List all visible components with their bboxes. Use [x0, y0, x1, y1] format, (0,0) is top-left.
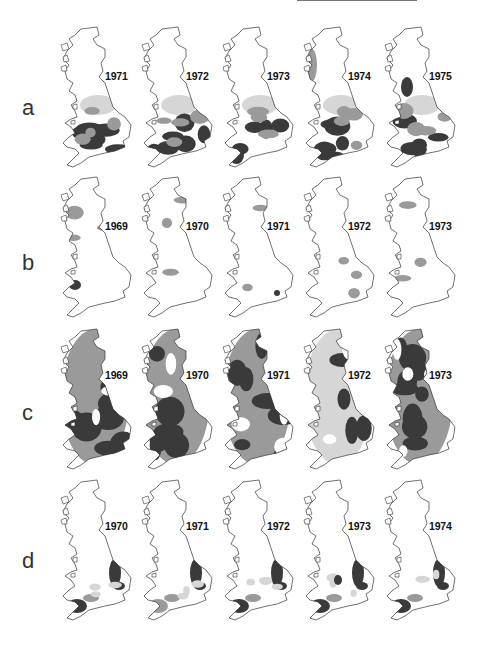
- gb-map-panel: 1974: [377, 478, 461, 623]
- year-label: 1972: [348, 369, 371, 381]
- year-label: 1972: [348, 220, 371, 232]
- year-label: 1971: [267, 369, 290, 381]
- great-britain-map: [53, 175, 137, 320]
- gb-map-panel: 1971: [215, 175, 299, 320]
- year-label: 1971: [267, 220, 290, 232]
- gb-map-panel: 1970: [134, 327, 218, 472]
- great-britain-map: [377, 175, 461, 320]
- great-britain-map: [53, 327, 137, 472]
- gb-map-panel: 1972: [215, 478, 299, 623]
- figure-caption-cutoff: [160, 632, 470, 640]
- year-label: 1970: [105, 520, 128, 532]
- gb-map-panel: 1971: [215, 327, 299, 472]
- gb-map-panel: 1975: [377, 25, 461, 170]
- gb-map-panel: 1973: [377, 327, 461, 472]
- row-label-c: c: [22, 400, 33, 426]
- gb-map-panel: 1969: [53, 327, 137, 472]
- great-britain-map: [134, 25, 218, 170]
- year-label: 1974: [429, 520, 452, 532]
- gb-map-panel: 1973: [215, 25, 299, 170]
- year-label: 1975: [429, 70, 452, 82]
- great-britain-map: [296, 25, 380, 170]
- year-label: 1974: [348, 70, 371, 82]
- great-britain-map: [215, 327, 299, 472]
- year-label: 1973: [429, 220, 452, 232]
- great-britain-map: [377, 327, 461, 472]
- year-label: 1973: [429, 369, 452, 381]
- year-label: 1970: [186, 369, 209, 381]
- gb-map-panel: 1970: [134, 175, 218, 320]
- gb-map-panel: 1972: [296, 327, 380, 472]
- year-label: 1971: [105, 70, 128, 82]
- great-britain-map: [134, 175, 218, 320]
- great-britain-map: [215, 25, 299, 170]
- gb-map-panel: 1972: [296, 175, 380, 320]
- year-label: 1973: [267, 70, 290, 82]
- gb-map-panel: 1971: [134, 478, 218, 623]
- row-label-a: a: [22, 95, 34, 121]
- gb-map-panel: 1973: [377, 175, 461, 320]
- great-britain-map: [134, 327, 218, 472]
- year-label: 1972: [267, 520, 290, 532]
- great-britain-map: [134, 478, 218, 623]
- year-label: 1972: [186, 70, 209, 82]
- gb-map-panel: 1969: [53, 175, 137, 320]
- gb-map-panel: 1973: [296, 478, 380, 623]
- gb-map-panel: 1970: [53, 478, 137, 623]
- row-label-b: b: [22, 250, 34, 276]
- year-label: 1970: [186, 220, 209, 232]
- great-britain-map: [377, 25, 461, 170]
- year-label: 1973: [348, 520, 371, 532]
- year-label: 1971: [186, 520, 209, 532]
- year-label: 1969: [105, 220, 128, 232]
- year-label: 1969: [105, 369, 128, 381]
- great-britain-map: [296, 478, 380, 623]
- great-britain-map: [53, 478, 137, 623]
- great-britain-map: [215, 478, 299, 623]
- gb-map-panel: 1971: [53, 25, 137, 170]
- top-rule: [297, 0, 417, 1]
- great-britain-map: [296, 327, 380, 472]
- great-britain-map: [215, 175, 299, 320]
- gb-map-panel: 1974: [296, 25, 380, 170]
- row-label-d: d: [22, 548, 34, 574]
- gb-map-panel: 1972: [134, 25, 218, 170]
- great-britain-map: [296, 175, 380, 320]
- great-britain-map: [53, 25, 137, 170]
- great-britain-map: [377, 478, 461, 623]
